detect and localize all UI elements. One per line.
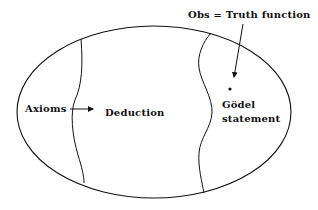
truth-function-arrow [234, 24, 243, 77]
godel-label-line2: statement [222, 113, 280, 124]
obs-truth-function-label: Obs = Truth function [188, 9, 311, 20]
axioms-label: Axioms [25, 103, 67, 114]
deduction-label: Deduction [105, 107, 165, 118]
godel-label-line1: Gödel [222, 99, 255, 110]
godel-statement-dot [228, 87, 231, 90]
left-boundary-curve [72, 39, 84, 183]
right-boundary-curve [199, 33, 212, 193]
